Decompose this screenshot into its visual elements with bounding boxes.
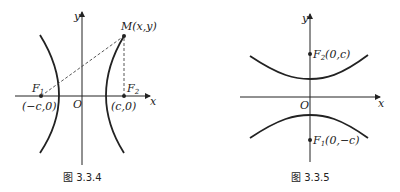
point-m [122,34,126,38]
origin-label: O [300,99,309,112]
point-m-label: M(x,y) [120,20,157,33]
x-axis-label: x [150,95,157,108]
focus-f2 [308,52,312,56]
focus-f1 [308,138,312,142]
f1-label: F1(0,−c) [312,134,360,148]
right-branch [106,36,124,153]
figure-caption: 图 3.3.4 [63,172,102,183]
origin-label: O [73,98,82,111]
f1-coord: (−c,0) [22,100,56,113]
figure-3-3-5: y x O F2(0,c) F1(0,−c) 图 3.3.5 [240,12,385,183]
f2-coord: (c,0) [111,100,136,113]
x-axis-label: x [378,97,385,110]
y-axis-label: y [301,12,309,25]
f1-label: F1 [31,82,44,96]
y-axis-label: y [73,10,81,23]
figure-caption: 图 3.3.5 [291,172,330,183]
f2-label: F2 [126,82,140,96]
figure-3-3-4: y x O M(x,y) F1 F2 (−c,0) (c,0) 图 3.3.4 [15,10,157,183]
f2-label: F2(0,c) [312,48,350,62]
focus-f2 [122,94,126,98]
hyperbola-figures: y x O M(x,y) F1 F2 (−c,0) (c,0) 图 3.3.4 … [0,0,400,192]
